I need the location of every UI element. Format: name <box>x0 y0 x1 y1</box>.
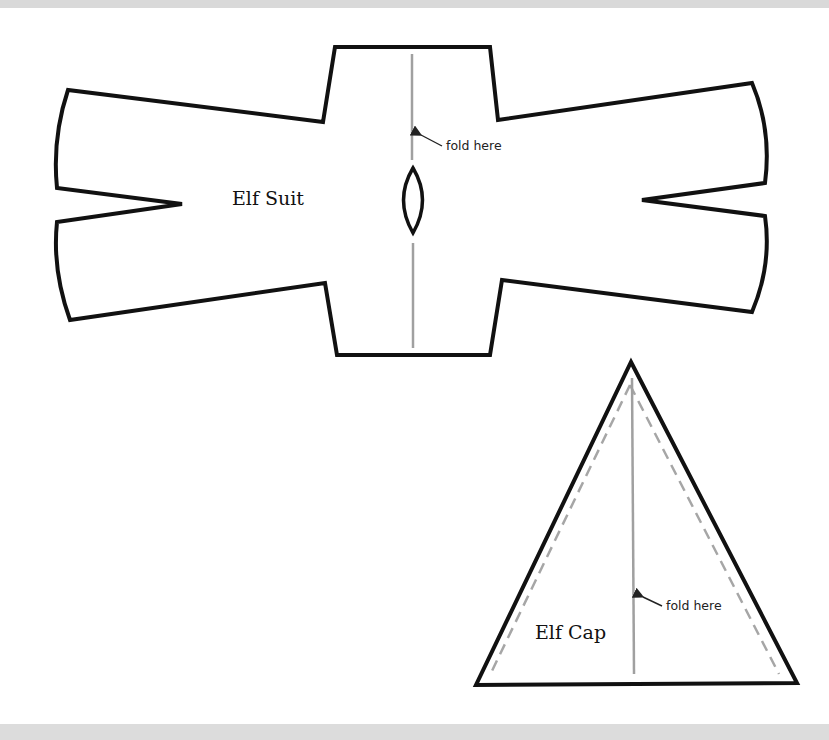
elf-suit-pattern: fold here Elf Suit <box>56 47 767 355</box>
cap-fold-label: fold here <box>666 598 722 613</box>
suit-title: Elf Suit <box>232 187 304 209</box>
pattern-sheet: fold here Elf Suit fold here Elf Cap <box>0 0 829 740</box>
neck-hole-icon <box>404 168 423 233</box>
cap-outline <box>476 362 797 685</box>
suit-fold-label: fold here <box>446 138 502 153</box>
elf-cap-pattern: fold here Elf Cap <box>476 362 797 685</box>
cap-title: Elf Cap <box>535 621 606 643</box>
